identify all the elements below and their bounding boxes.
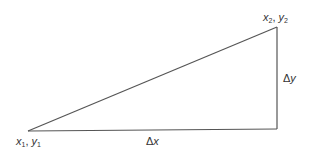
point1-label: x1, y1 <box>16 136 41 148</box>
delta-y-label: Δy <box>283 73 296 84</box>
point2-label: x2, y2 <box>263 12 288 24</box>
delta-x-label: Δx <box>146 136 159 147</box>
horizontal-leg-line <box>28 129 277 131</box>
hypotenuse-line <box>28 27 277 131</box>
